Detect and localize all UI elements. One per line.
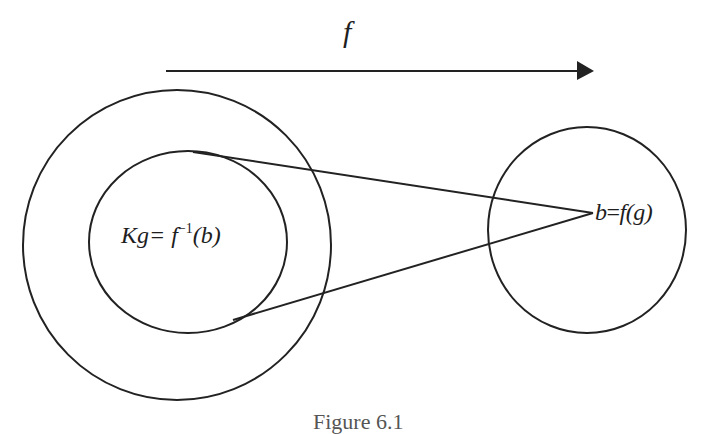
fiber-label-arg: (b) xyxy=(193,222,221,248)
codomain-circle xyxy=(488,127,686,333)
mapping-arrow xyxy=(166,61,594,80)
fiber-label: Kg= f−1(b) xyxy=(121,222,221,247)
fiber-label-f: f xyxy=(171,222,178,248)
image-label: b=f(g) xyxy=(595,200,652,224)
arrowhead-icon xyxy=(577,61,594,80)
fiber-label-kg: Kg= xyxy=(121,222,171,248)
image-label-arg: (g) xyxy=(626,199,652,225)
arrow-label-f: f xyxy=(343,17,351,47)
projection-line-upper xyxy=(193,152,593,213)
fiber-label-exponent: −1 xyxy=(178,221,193,236)
image-label-eq: = xyxy=(607,199,620,225)
figure-caption: Figure 6.1 xyxy=(313,411,403,433)
image-label-b: b xyxy=(595,199,607,225)
